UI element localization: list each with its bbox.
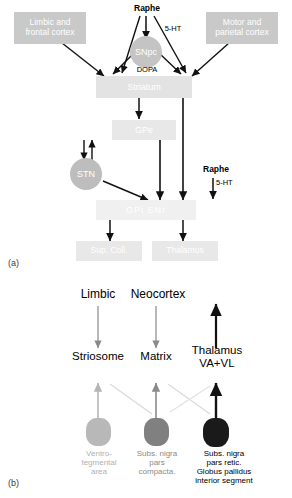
node-limbic-frontal-cortex: Limbic and frontal cortex [14,12,86,44]
node-thalamus: Thalamus [152,241,218,261]
node-motor-parietal-cortex: Motor and parietal cortex [206,12,278,44]
node-snpc: SNpc [130,36,162,68]
panel-tag-b: (b) [8,478,19,488]
label-raphe-top: Raphe [126,4,168,13]
node-gpe: GPe [112,120,176,140]
arrow-stn-to-gpi [103,181,148,200]
node-sup-coll: Sup. Coll. [76,241,142,261]
panel-tag-a: (a) [8,258,19,268]
label-subs-nigra-pars-retic: Subs. nigra pars retic. Globus pallidus … [176,450,272,486]
label-thalamus-va-vl: Thalamus VA+VL [180,344,254,370]
connector-striosome-to-snpc [110,384,152,414]
blob-subs-nigra-pars-retic [203,418,229,447]
label-5ht-top: 5-HT [160,25,186,33]
node-striatum: Striatum [96,76,192,98]
blob-ventro-tegmental-area [86,418,111,446]
label-5ht-lower: 5-HT [216,179,240,187]
label-neocortex: Neocortex [118,288,198,301]
arrow-motor-to-striatum [192,43,229,76]
blob-subs-nigra-pars-compacta [144,418,169,446]
label-ventro-tegmental-area: Ventro- tegmental area [66,450,132,477]
label-dopa: DOPA [130,66,164,74]
label-raphe-lower: Raphe [196,165,236,174]
node-gpi-snr: GPi SNr [96,200,196,220]
label-matrix: Matrix [126,350,186,363]
node-stn: STN [70,158,102,190]
figure-root: Limbic and frontal cortex Motor and pari… [0,0,292,498]
arrow-limbic-to-striatum [62,43,104,76]
